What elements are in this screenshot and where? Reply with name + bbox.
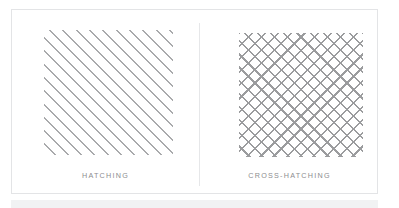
- panel-cross-hatching: CROSS-HATCHING: [200, 10, 379, 193]
- cross-hatching-pattern-swatch: [239, 33, 363, 157]
- hatching-pattern-swatch: [44, 30, 173, 155]
- caption-cross-hatching: CROSS-HATCHING: [200, 171, 379, 180]
- panel-hatching: HATCHING: [12, 10, 199, 193]
- diagram-card: HATCHING CROSS-HATCHING: [11, 9, 378, 194]
- caption-hatching: HATCHING: [12, 171, 199, 180]
- bottom-band: [11, 200, 378, 208]
